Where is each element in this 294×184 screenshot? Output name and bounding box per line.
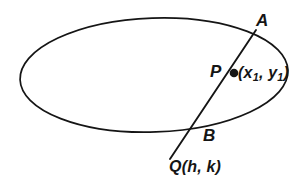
point-p-marker xyxy=(230,69,239,78)
label-point-q-coordinates: Q(h, k) xyxy=(169,159,221,175)
label-point-p-coordinates: (x1, y1) xyxy=(238,65,289,83)
close-paren-p: ) xyxy=(284,64,290,81)
label-point-b: B xyxy=(203,127,215,144)
coord-x: x xyxy=(244,64,253,81)
coord-comma-p: , xyxy=(259,64,268,81)
figure-canvas xyxy=(0,0,294,184)
coord-y: y xyxy=(268,64,277,81)
geometry-figure: A B P (x1, y1) Q(h, k) xyxy=(0,0,294,184)
coord-k: k xyxy=(206,158,215,175)
label-point-q: Q xyxy=(169,158,182,175)
close-paren-q: ) xyxy=(216,158,222,175)
label-point-a: A xyxy=(256,12,268,29)
label-point-p: P xyxy=(210,63,222,80)
coord-h: h xyxy=(187,158,197,175)
